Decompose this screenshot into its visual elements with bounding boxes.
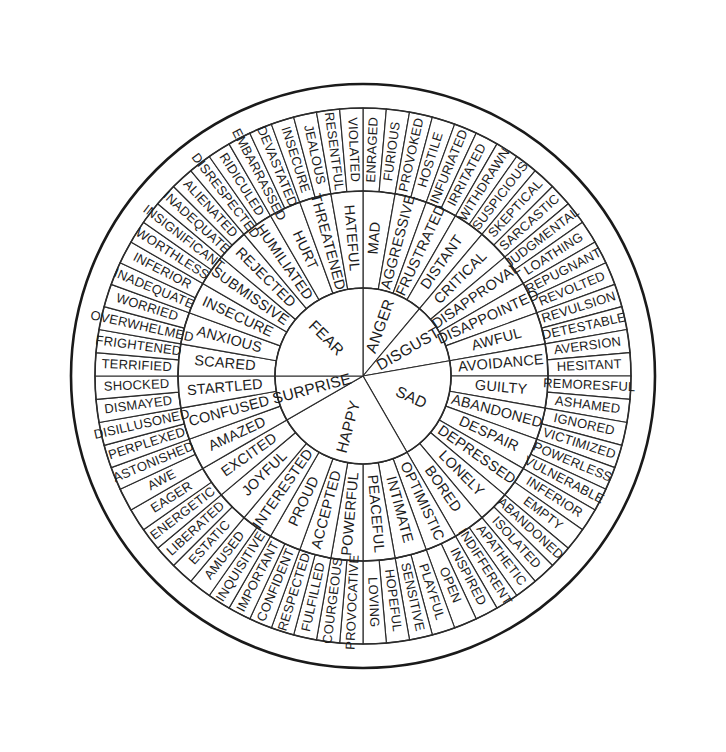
outer-label-shocked: SHOCKED	[104, 376, 170, 394]
outer-label-enraged: ENRAGED	[363, 117, 381, 183]
outer-label-loving: LOVING	[365, 577, 382, 628]
outer-label-hesitant: HESITANT	[556, 356, 622, 374]
core-ring-group	[275, 288, 451, 464]
middle-label-mad: MAD	[365, 221, 384, 255]
outer-label-terrified: TERRIFIED	[101, 356, 172, 374]
emotion-wheel-canvas: ENRAGEDFURIOUSPROVOKEDHOSTILEINFURIATEDI…	[0, 0, 726, 752]
emotion-wheel-diagram: ENRAGEDFURIOUSPROVOKEDHOSTILEINFURIATEDI…	[0, 0, 726, 752]
outer-label-violated: VIOLATED	[345, 117, 363, 183]
